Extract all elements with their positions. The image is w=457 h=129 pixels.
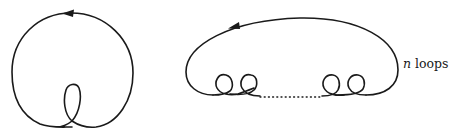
small-loop-right-2 (338, 75, 366, 95)
arrow-icon (62, 10, 74, 18)
diagram-canvas (0, 0, 457, 129)
loops-text: loops (411, 56, 448, 71)
small-loop-left-2 (230, 75, 260, 96)
arrow-icon (228, 22, 240, 29)
n-loop-outer-curve (186, 18, 398, 95)
n-loops-label: n loops (403, 56, 449, 71)
n-loop-figure (186, 18, 398, 97)
small-loop-left-1 (213, 75, 254, 95)
single-loop-outer-curve (12, 13, 133, 127)
n-variable: n (403, 56, 411, 71)
small-loop-right-1 (322, 75, 344, 96)
single-loop-figure (12, 10, 133, 128)
